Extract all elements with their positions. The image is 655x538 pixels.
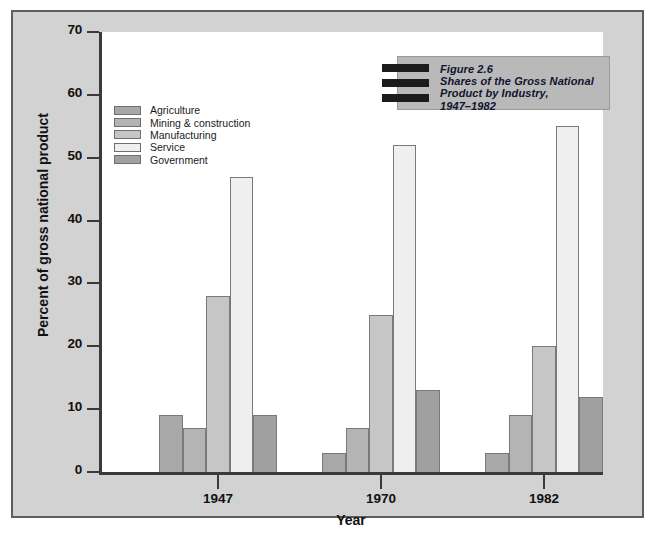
bar bbox=[509, 415, 533, 472]
title-rule-icon bbox=[382, 94, 429, 102]
bar bbox=[159, 415, 183, 472]
figure-title-text: Figure 2.6Shares of the Gross NationalPr… bbox=[440, 63, 594, 112]
figure-caption bbox=[11, 529, 631, 538]
y-axis-tick: 40 bbox=[13, 220, 99, 222]
figure-title-line: Shares of the Gross National bbox=[440, 75, 594, 87]
y-axis-tick: 50 bbox=[13, 157, 99, 159]
y-axis-tick: 60 bbox=[13, 94, 99, 96]
legend-item: Agriculture bbox=[114, 104, 250, 116]
y-axis-tick: 30 bbox=[13, 282, 99, 284]
legend-label: Manufacturing bbox=[150, 129, 217, 141]
legend-swatch bbox=[114, 130, 141, 139]
x-tick-mark bbox=[543, 475, 545, 489]
x-tick-mark bbox=[380, 475, 382, 489]
x-tick-mark bbox=[217, 475, 219, 489]
bar bbox=[579, 397, 603, 472]
y-tick-mark bbox=[87, 94, 99, 96]
y-axis-tick: 20 bbox=[13, 345, 99, 347]
bar bbox=[183, 428, 207, 472]
bar bbox=[346, 428, 370, 472]
legend-swatch bbox=[114, 106, 141, 115]
bar bbox=[485, 453, 509, 472]
y-tick-label: 20 bbox=[67, 336, 82, 351]
x-axis-line bbox=[99, 472, 603, 475]
bar bbox=[416, 390, 440, 472]
figure-title-line: Figure 2.6 bbox=[440, 63, 594, 75]
y-axis-title: Percent of gross national product bbox=[35, 45, 51, 405]
bar bbox=[253, 415, 277, 472]
legend-swatch bbox=[114, 118, 141, 127]
y-tick-label: 0 bbox=[75, 462, 82, 477]
x-tick-label: 1947 bbox=[158, 491, 278, 506]
figure-title-line: Product by Industry, bbox=[440, 87, 594, 99]
y-tick-label: 30 bbox=[67, 273, 82, 288]
y-axis-tick: 70 bbox=[13, 31, 99, 33]
title-rule-icon bbox=[382, 64, 429, 72]
bar bbox=[369, 315, 393, 472]
y-tick-mark bbox=[87, 408, 99, 410]
figure-title-block: Figure 2.6Shares of the Gross NationalPr… bbox=[397, 56, 610, 110]
legend-swatch bbox=[114, 143, 141, 152]
legend-label: Service bbox=[150, 141, 185, 153]
legend-item: Government bbox=[114, 154, 250, 166]
y-tick-label: 50 bbox=[67, 148, 82, 163]
legend-item: Manufacturing bbox=[114, 129, 250, 141]
y-tick-label: 40 bbox=[67, 211, 82, 226]
y-axis-tick: 10 bbox=[13, 408, 99, 410]
title-rule-icon bbox=[382, 79, 429, 87]
y-tick-mark bbox=[87, 31, 99, 33]
legend-item: Service bbox=[114, 141, 250, 153]
bar bbox=[556, 126, 580, 472]
y-tick-mark bbox=[87, 157, 99, 159]
legend-label: Agriculture bbox=[150, 104, 200, 116]
x-tick-label: 1970 bbox=[321, 491, 441, 506]
bar bbox=[532, 346, 556, 472]
figure-title-line: 1947–1982 bbox=[440, 100, 594, 112]
y-tick-mark bbox=[87, 471, 99, 473]
y-tick-label: 10 bbox=[67, 399, 82, 414]
x-axis-title: Year bbox=[99, 512, 603, 528]
legend-item: Mining & construction bbox=[114, 116, 250, 128]
y-tick-mark bbox=[87, 282, 99, 284]
bar bbox=[322, 453, 346, 472]
y-axis-tick: 0 bbox=[13, 471, 99, 473]
x-tick-label: 1982 bbox=[484, 491, 604, 506]
legend-swatch bbox=[114, 155, 141, 164]
bar bbox=[230, 177, 254, 472]
y-tick-label: 60 bbox=[67, 85, 82, 100]
y-tick-mark bbox=[87, 220, 99, 222]
bar bbox=[393, 145, 417, 472]
y-tick-label: 70 bbox=[67, 22, 82, 37]
legend-label: Government bbox=[150, 154, 208, 166]
bar bbox=[206, 296, 230, 472]
y-axis-line bbox=[99, 32, 102, 475]
chart-legend: AgricultureMining & constructionManufact… bbox=[114, 104, 250, 166]
figure-panel: 010203040506070 Percent of gross nationa… bbox=[11, 10, 644, 518]
y-tick-mark bbox=[87, 345, 99, 347]
legend-label: Mining & construction bbox=[150, 117, 250, 129]
